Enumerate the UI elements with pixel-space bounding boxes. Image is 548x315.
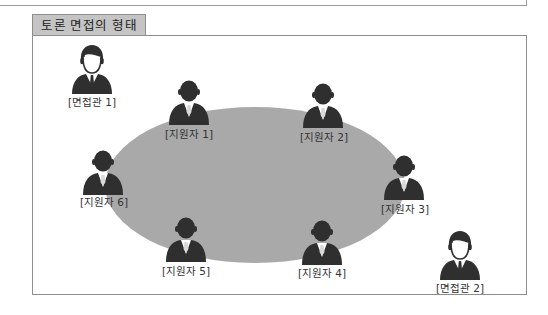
applicant-icon — [300, 219, 344, 265]
applicant-icon — [382, 154, 426, 200]
applicant-6-label: [지원자 6] — [80, 196, 128, 208]
interviewer-2-label: [면접관 2] — [436, 282, 484, 294]
applicant-icon — [164, 216, 208, 262]
applicant-6 — [81, 149, 125, 195]
applicant-icon — [81, 149, 125, 195]
applicant-2 — [301, 82, 345, 128]
applicant-1 — [167, 79, 211, 125]
applicant-5-label: [지원자 5] — [162, 265, 210, 277]
applicant-icon — [301, 82, 345, 128]
interviewer-1 — [70, 44, 114, 94]
applicant-5 — [164, 216, 208, 262]
applicant-3-label: [지원자 3] — [381, 203, 429, 215]
interviewer-1-label: [면접관 1] — [68, 96, 116, 108]
interviewer-icon — [438, 230, 482, 280]
applicant-3 — [382, 154, 426, 200]
diagram-title: 토론 면접의 형태 — [32, 14, 146, 36]
applicant-1-label: [지원자 1] — [165, 128, 213, 140]
previous-section-box — [0, 0, 527, 6]
interviewer-icon — [70, 44, 114, 94]
interviewer-2 — [438, 230, 482, 280]
applicant-4 — [300, 219, 344, 265]
discussion-table — [105, 107, 405, 263]
applicant-icon — [167, 79, 211, 125]
applicant-4-label: [지원자 4] — [298, 267, 346, 279]
applicant-2-label: [지원자 2] — [300, 131, 348, 143]
